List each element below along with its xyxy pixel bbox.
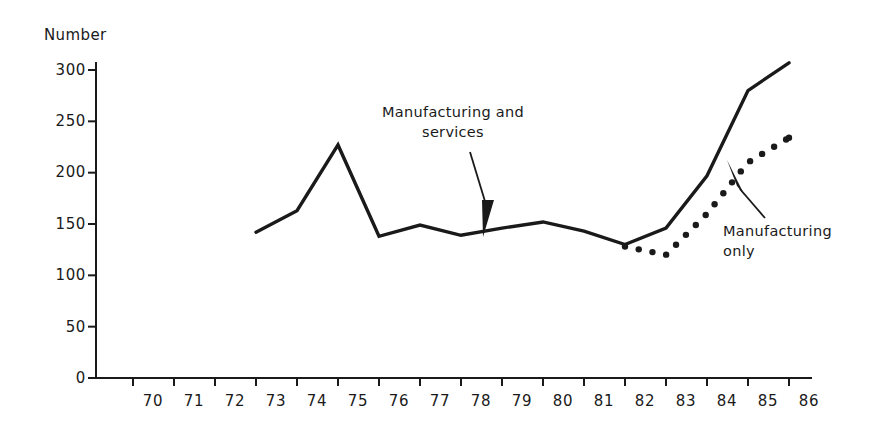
series-dot xyxy=(693,222,699,228)
arrow-head-up-icon xyxy=(727,160,745,196)
series-dot xyxy=(622,243,628,249)
series-dot xyxy=(759,151,765,157)
series-dot xyxy=(786,135,792,141)
chart-figure: Number 300 250 200 150 100 50 0 70 71 72… xyxy=(0,0,892,436)
series-dot xyxy=(636,246,642,252)
series-line-manufacturing-and-services xyxy=(256,63,789,245)
arrow-shaft xyxy=(740,189,765,218)
series-dot xyxy=(649,249,655,255)
annotation-arrow-manufacturing-only xyxy=(727,160,765,218)
series-dot xyxy=(673,242,679,248)
series-dot xyxy=(738,168,744,174)
axes xyxy=(88,62,812,386)
x-tick-marks xyxy=(133,378,789,386)
series-dot xyxy=(702,212,708,218)
annotation-arrow-manufacturing-and-services xyxy=(470,152,494,237)
series-dot xyxy=(747,158,753,164)
series-dot xyxy=(683,232,689,238)
series-dot xyxy=(729,179,735,185)
series-line-manufacturing-only xyxy=(622,135,792,258)
arrow-shaft xyxy=(470,152,487,208)
series-dot xyxy=(711,201,717,207)
series-dot xyxy=(771,144,777,150)
y-tick-marks xyxy=(88,70,96,378)
plot-area xyxy=(0,0,892,436)
series-dot xyxy=(720,190,726,196)
series-dot xyxy=(663,251,669,257)
